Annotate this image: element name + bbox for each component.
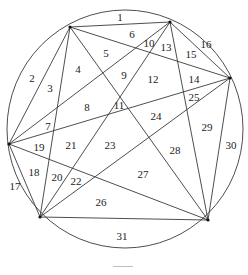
region-label: 14	[189, 74, 200, 85]
region-label: 20	[52, 172, 63, 183]
region-label: 21	[66, 140, 77, 151]
vertex-A	[68, 25, 71, 28]
region-label: 16	[201, 39, 212, 50]
vertex-B	[168, 20, 171, 23]
region-label: 28	[170, 145, 181, 156]
region-label: 22	[71, 176, 82, 187]
caption-mark	[113, 266, 133, 267]
chord-CF	[9, 78, 230, 144]
region-label: 9	[121, 70, 127, 81]
vertex-C	[228, 76, 231, 79]
region-label: 24	[151, 111, 162, 122]
region-label: 11	[114, 100, 125, 111]
region-label: 2	[29, 73, 35, 84]
vertex-D	[206, 218, 209, 221]
vertex-points	[7, 20, 231, 221]
region-label: 29	[202, 122, 213, 133]
chord-AB	[70, 22, 170, 27]
region-label: 3	[47, 83, 53, 94]
region-label: 25	[189, 92, 200, 103]
region-label: 10	[144, 38, 155, 49]
region-label: 8	[84, 102, 90, 113]
vertex-F	[7, 142, 10, 145]
region-label: 1	[117, 12, 123, 23]
region-label: 15	[186, 49, 197, 60]
region-label: 13	[161, 42, 172, 53]
region-label: 7	[45, 121, 51, 132]
region-label: 23	[105, 140, 116, 151]
vertex-E	[38, 215, 41, 218]
region-label: 26	[96, 197, 107, 208]
region-label: 4	[75, 64, 81, 75]
region-label: 27	[138, 169, 149, 180]
region-label: 18	[29, 167, 40, 178]
region-label: 17	[10, 181, 21, 192]
chord-DE	[40, 217, 208, 220]
region-label: 12	[148, 74, 159, 85]
region-label: 30	[226, 140, 237, 151]
chord-lines	[9, 22, 230, 220]
region-label: 31	[117, 231, 128, 242]
region-label: 5	[103, 48, 109, 59]
region-label: 6	[129, 29, 135, 40]
region-label: 19	[34, 142, 45, 153]
